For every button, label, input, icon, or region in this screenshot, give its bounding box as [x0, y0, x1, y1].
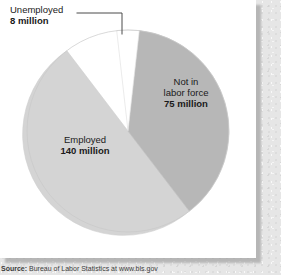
slice-label-not-in-labor-force-value: 75 million — [148, 98, 224, 109]
source-label: Source: — [1, 265, 27, 272]
slice-label-unemployed-value: 8 million — [10, 15, 63, 26]
source-text: Bureau of Labor Statistics at www.bls.go… — [27, 265, 158, 272]
slice-label-not-in-labor-force: Not in labor force 75 million — [148, 76, 224, 109]
slice-label-unemployed: Unemployed 8 million — [10, 4, 63, 26]
slice-label-employed: Employed 140 million — [38, 134, 132, 156]
slice-label-employed-value: 140 million — [38, 145, 132, 156]
pie-chart-panel: Unemployed 8 million Not in labor force … — [0, 0, 256, 258]
slice-label-unemployed-name: Unemployed — [10, 4, 63, 15]
slice-label-not-in-labor-force-line1: Not in — [148, 76, 224, 87]
slice-label-not-in-labor-force-line2: labor force — [148, 87, 224, 98]
pie-chart — [0, 0, 256, 258]
source-note: Source: Bureau of Labor Statistics at ww… — [1, 264, 158, 273]
slice-label-employed-name: Employed — [38, 134, 132, 145]
